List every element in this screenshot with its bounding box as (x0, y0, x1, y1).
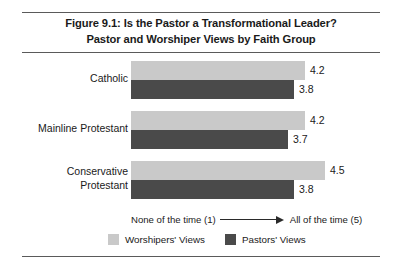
bar-value-worshipers-conservative-protestant: 4.5 (330, 164, 345, 177)
bar-worshipers-mainline-protestant (131, 111, 305, 130)
category-label-line-2: Protestant (0, 178, 128, 192)
bar-pastors-catholic (131, 80, 294, 99)
legend-label-worshipers: Worshipers' Views (125, 234, 205, 245)
axis-scale-right-label: All of the time (5) (290, 214, 363, 225)
legend-swatch-pastors-icon (225, 234, 236, 245)
legend-item-pastors: Pastors' Views (225, 234, 306, 245)
chart-legend: Worshipers' Views Pastors' Views (108, 234, 306, 245)
category-label-catholic: Catholic (0, 71, 128, 85)
bar-chart-plot-area: Catholic 4.2 3.8 Mainline Protestant (0, 58, 404, 208)
category-label-line-1: Conservative (0, 164, 128, 178)
legend-item-worshipers: Worshipers' Views (108, 234, 205, 245)
bar-group-conservative-protestant: Conservative Protestant 4.5 3.8 (0, 161, 404, 203)
bar-pastors-mainline-protestant (131, 130, 288, 149)
arrow-line (220, 219, 278, 220)
top-rule (22, 12, 380, 13)
bar-value-pastors-mainline-protestant: 3.7 (293, 133, 308, 146)
category-label-line-1: Mainline Protestant (0, 121, 128, 135)
legend-swatch-worshipers-icon (108, 234, 119, 245)
bottom-rule (22, 256, 380, 257)
right-arrow-icon (220, 214, 286, 224)
bar-value-pastors-conservative-protestant: 3.8 (299, 183, 314, 196)
category-label-mainline-protestant: Mainline Protestant (0, 121, 128, 135)
legend-label-pastors: Pastors' Views (242, 234, 306, 245)
bar-group-mainline-protestant: Mainline Protestant 4.2 3.7 (0, 111, 404, 153)
bar-group-catholic: Catholic 4.2 3.8 (0, 61, 404, 103)
bar-value-worshipers-catholic: 4.2 (310, 64, 325, 77)
category-label-conservative-protestant: Conservative Protestant (0, 164, 128, 192)
figure-title: Figure 9.1: Is the Pastor a Transformati… (22, 16, 380, 47)
arrow-head (276, 216, 284, 224)
bar-value-pastors-catholic: 3.8 (299, 83, 314, 96)
category-label-line-1: Catholic (0, 71, 128, 85)
bar-pastors-conservative-protestant (131, 180, 294, 199)
bar-value-worshipers-mainline-protestant: 4.2 (310, 114, 325, 127)
figure-container: Figure 9.1: Is the Pastor a Transformati… (0, 0, 404, 273)
axis-scale-left-label: None of the time (1) (131, 214, 216, 225)
axis-scale-annotation: None of the time (1) All of the time (5) (131, 212, 376, 226)
bar-worshipers-conservative-protestant (131, 161, 325, 180)
title-divider-rule (22, 52, 380, 53)
figure-title-line-1: Figure 9.1: Is the Pastor a Transformati… (22, 16, 380, 32)
figure-title-line-2: Pastor and Worshiper Views by Faith Grou… (22, 32, 380, 48)
bar-worshipers-catholic (131, 61, 305, 80)
